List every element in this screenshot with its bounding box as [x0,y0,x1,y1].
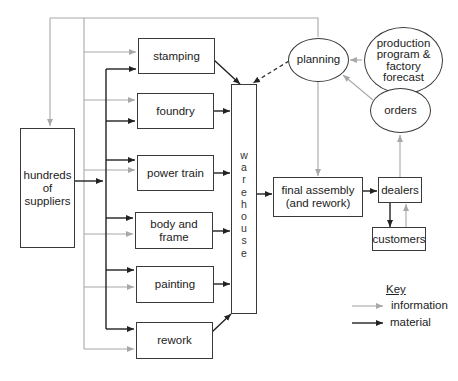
material-arrow-rework-warehouse [212,314,231,332]
customers-label: customers [372,233,425,246]
warehouse-letter: h [241,198,247,210]
customers-box: customers [372,227,426,251]
key-information-label: information [391,299,448,311]
warehouse-letter: e [241,186,247,198]
rework-label: rework [157,334,192,347]
foundry-label: foundry [156,105,194,118]
foundry-box: foundry [137,93,214,129]
dashed-arrow-planning-warehouse [253,61,289,83]
orders-ellipse: orders [370,88,431,133]
final-assembly-box: final assembly (and rework) [273,177,363,217]
material-arrow-stamping-warehouse [214,60,240,84]
dealers-box: dealers [378,177,422,203]
rework-box: rework [136,322,213,359]
key-material-label: material [390,316,431,328]
suppliers-box: hundreds of suppliers [20,128,75,248]
orders-label: orders [384,105,417,117]
power-train-label: power train [147,167,204,180]
key-title: Key [386,283,406,295]
suppliers-label-line: suppliers [24,195,72,208]
suppliers-label-line: of [24,182,72,195]
planning-ellipse: planning [288,38,349,82]
final-assembly-label-line: (and rework) [282,197,355,210]
painting-box: painting [136,266,214,303]
stamping-box: stamping [138,38,215,74]
planning-label: planning [297,54,340,66]
warehouse-box: w a r e h o u s e [231,84,257,314]
power-train-box: power train [137,155,214,191]
diagram-canvas: hundreds of suppliers stamping foundry p… [0,0,458,381]
stamping-label: stamping [153,50,200,63]
warehouse-letter: s [241,234,246,246]
painting-label: painting [155,278,195,291]
warehouse-letter: r [242,173,246,185]
dealers-label: dealers [381,184,419,197]
warehouse-letter: o [241,210,247,222]
final-assembly-label-line: final assembly [282,184,355,197]
warehouse-letter: u [241,222,247,234]
planning-top-info-line [50,18,318,37]
body-and-frame-box: body and frame [135,212,213,249]
production-label-line: program & [365,49,442,61]
warehouse-label: w a r e h o u s e [240,149,248,259]
warehouse-letter: e [241,247,247,259]
production-program-ellipse: production program & factory forecast [364,27,443,94]
warehouse-letter: a [241,161,247,173]
warehouse-letter: w [240,149,248,161]
production-label-line: factory forecast [365,61,442,84]
body-and-frame-label: body and frame [136,218,212,244]
suppliers-label-line: hundreds [24,169,72,182]
